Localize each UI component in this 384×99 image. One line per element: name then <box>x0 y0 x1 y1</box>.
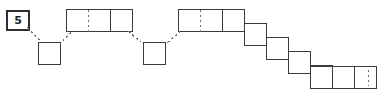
stair-cell-1 <box>223 10 245 32</box>
shape-single-box-left <box>39 43 61 65</box>
stair-cell-2 <box>245 24 267 46</box>
shape-strip-bottom-right <box>311 67 377 89</box>
shape-strip-top-right <box>179 10 223 32</box>
shape-single-box-mid <box>144 43 166 65</box>
strip-outline-strip-top-left <box>67 10 133 32</box>
stair-cell-3 <box>267 38 289 60</box>
strip-outline-single-box-mid <box>144 43 166 65</box>
stair-cell-4 <box>289 52 311 74</box>
shape-strip-top-left <box>67 10 133 32</box>
diagram-canvas: 5 <box>0 0 384 99</box>
strip-outline-strip-bottom-right <box>311 67 377 89</box>
puzzle-figure <box>0 0 384 99</box>
connector-conn-boxmid-to-strip2 <box>168 32 181 43</box>
strip-outline-single-box-left <box>39 43 61 65</box>
connector-conn-label-to-box <box>28 28 41 42</box>
connector-conn-strip1-to-boxmid <box>129 32 142 43</box>
